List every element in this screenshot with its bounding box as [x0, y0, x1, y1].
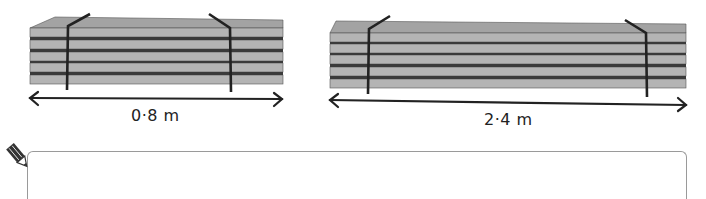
short-plank-stack — [0, 0, 706, 140]
answer-box[interactable] — [27, 151, 687, 199]
long-stack-length-label: 2·4 m — [484, 110, 533, 129]
short-stack-length-label: 0·8 m — [131, 106, 180, 125]
pencil-icon — [6, 142, 32, 172]
